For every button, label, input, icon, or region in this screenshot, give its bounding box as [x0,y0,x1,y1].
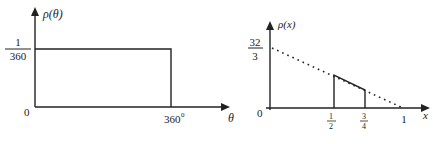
right-x-label: x [422,109,428,121]
left-y-arrow-icon [31,7,39,16]
right-ytick-num: 32 [250,36,261,48]
right-y-label: ρ(x) [277,18,296,31]
left-ytick-den: 360 [10,50,27,62]
uniform-density-rect [35,49,171,107]
figure: ρ(θ) 1 360 0 360 0 θ ρ(x) 32 3 0 1 2 3 4… [0,0,433,144]
left-x-label: θ [228,111,234,125]
right-xtick-one: 1 [401,113,407,125]
density-segment [334,75,365,108]
right-xtick-half-num: 1 [329,112,333,121]
right-origin-label: 0 [257,107,263,119]
left-origin-label: 0 [24,106,30,118]
right-xtick-3q-den: 4 [362,122,366,131]
right-ytick-den: 3 [252,50,258,62]
left-x-arrow-icon [221,103,230,111]
left-xtick-360: 360 [164,113,181,125]
left-xtick-degree: 0 [181,111,185,119]
left-y-label: ρ(θ) [42,7,63,21]
right-y-arrow-icon [266,21,274,30]
right-xtick-3q-num: 3 [362,112,366,121]
density-dotted-line [272,48,403,108]
left-plot: ρ(θ) 1 360 0 360 0 θ [5,7,234,125]
right-xtick-half-den: 2 [329,122,333,131]
left-ytick-num: 1 [15,36,21,48]
right-plot: ρ(x) 32 3 0 1 2 3 4 1 x [248,18,430,131]
